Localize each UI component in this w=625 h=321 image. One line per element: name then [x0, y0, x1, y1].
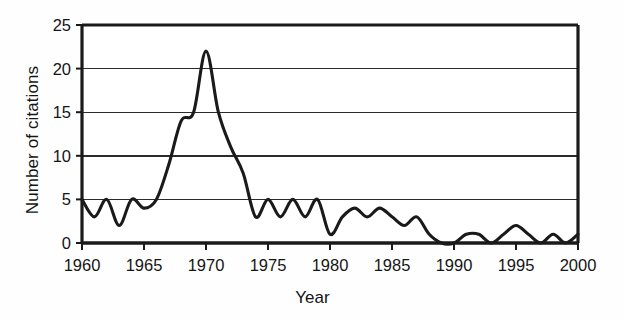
svg-text:1960: 1960 [64, 256, 101, 274]
svg-text:1970: 1970 [188, 256, 225, 274]
svg-text:10: 10 [53, 147, 71, 165]
svg-text:20: 20 [53, 60, 71, 78]
svg-text:25: 25 [53, 16, 71, 34]
svg-text:1980: 1980 [312, 256, 349, 274]
plot-background [82, 25, 578, 243]
svg-text:1965: 1965 [126, 256, 163, 274]
x-axis-tick-labels: 196019651970197519801985199019952000 [64, 256, 597, 274]
svg-text:1985: 1985 [374, 256, 411, 274]
citations-line-chart: 0510152025 19601965197019751980198519901… [0, 0, 625, 321]
svg-text:1975: 1975 [250, 256, 287, 274]
y-axis-tick-labels: 0510152025 [53, 16, 71, 252]
svg-text:0: 0 [62, 234, 71, 252]
svg-text:2000: 2000 [560, 256, 597, 274]
svg-text:15: 15 [53, 103, 71, 121]
y-axis-title: Number of citations [23, 45, 43, 235]
svg-text:1990: 1990 [436, 256, 473, 274]
x-axis-title: Year [0, 288, 625, 308]
svg-text:1995: 1995 [498, 256, 535, 274]
chart-plot-svg: 0510152025 19601965197019751980198519901… [0, 0, 625, 321]
svg-text:5: 5 [62, 190, 71, 208]
